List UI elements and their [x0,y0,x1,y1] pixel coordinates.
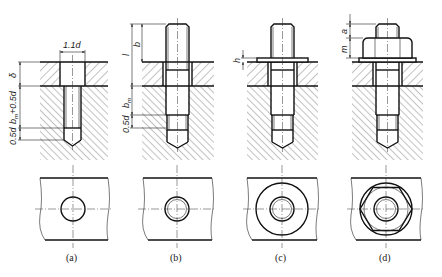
dim-end-projection: a [339,29,349,34]
caption-a: (a) [66,252,77,264]
dim-hole-width: 1.1d [63,40,82,50]
bolt-connection-figure: 1.1d δ bm+0.5d 0.5d [0,0,442,277]
dim-thread-depth: bm+0.5d [8,90,19,124]
view-c-section: h [232,18,318,160]
view-c-plan [243,165,321,248]
dim-extra: 0.5d [121,114,131,133]
dim-plate-thickness: δ [8,72,18,78]
dim-stud-length: l [121,53,131,56]
view-d-plan [347,165,425,248]
dim-nut-height: m [339,45,349,53]
dim-drill-extra: 0.5d [8,126,18,145]
view-a-plan [35,165,112,248]
view-b-section: l b bm 0.5d [121,18,214,160]
dim-projection: b [132,42,142,47]
caption-d: (d) [379,252,391,264]
view-b-plan [138,165,216,248]
view-a-section: 1.1d δ bm+0.5d 0.5d [8,40,108,160]
caption-b: (b) [170,252,182,264]
dim-engage-length: bm [121,98,132,108]
dim-washer-thickness: h [232,58,242,63]
view-d-section: a m [339,14,423,160]
caption-c: (c) [275,252,286,264]
